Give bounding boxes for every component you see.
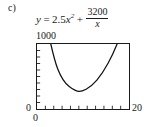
x-axis-ticks [45, 106, 120, 109]
plot-svg [37, 44, 129, 109]
equation-plus-sign: + [77, 14, 83, 25]
curve-path [51, 44, 117, 91]
x-axis-min-label: 0 [33, 113, 38, 123]
equation-lhs: y [36, 14, 41, 25]
part-label: c) [8, 3, 16, 13]
fraction-numerator: 3200 [86, 7, 108, 18]
equation-fraction: 3200 x [86, 7, 108, 29]
y-axis-min-label: 0 [26, 103, 31, 113]
plot-frame [36, 43, 130, 110]
equation-exponent: 2 [71, 13, 75, 20]
x-axis-max-label: 20 [132, 103, 142, 113]
fraction-denominator: x [94, 19, 100, 30]
y-axis-ticks [37, 51, 40, 103]
equation-equals-sign: = [43, 14, 49, 25]
equation-coefficient: 2.5 [52, 14, 66, 25]
y-axis-max-label: 1000 [36, 31, 56, 41]
equation: y = 2.5x2 + 3200 x [36, 5, 109, 33]
figure-container: c) y = 2.5x2 + 3200 x [0, 0, 152, 127]
